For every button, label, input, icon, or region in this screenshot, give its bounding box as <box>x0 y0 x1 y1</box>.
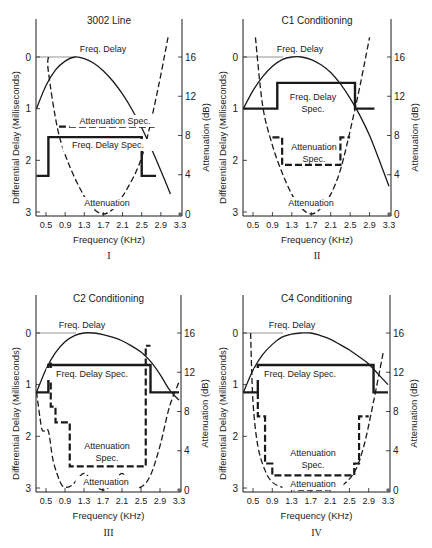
x-tick-label: 1.3 <box>285 496 298 506</box>
right-tick-label: 16 <box>185 52 197 63</box>
annotation-label: Freq. Delay Spec. <box>264 369 336 379</box>
x-tick-label: 0.9 <box>59 220 72 230</box>
left-tick-label: 1 <box>25 379 31 390</box>
annotation-label: Attenuation <box>83 477 129 487</box>
x-tick-label: 1.7 <box>305 496 318 506</box>
annotation-label: Attenuation <box>288 198 334 208</box>
left-tick-label: 0 <box>232 328 238 339</box>
x-tick-label: 1.7 <box>97 496 110 506</box>
x-tick-label: 2.9 <box>362 496 375 506</box>
series-freq-delay <box>243 333 388 393</box>
x-tick-label: 1.7 <box>97 220 110 230</box>
series-freq-delay <box>37 333 180 400</box>
right-tick-label: 0 <box>184 485 190 496</box>
x-axis-label: Frequency (KHz) <box>73 234 145 245</box>
panel-3002-line: 3002 Line012316128400.50.91.31.72.12.52.… <box>10 15 211 261</box>
x-tick-label: 3.3 <box>174 220 187 230</box>
annotation-label: Attenuation Spec. <box>79 116 150 126</box>
right-tick-label: 8 <box>394 130 400 141</box>
right-axis-label: Attenuation (dB) <box>409 103 420 172</box>
panel-c4-conditioning: C4 Conditioning012316128400.50.91.31.72.… <box>217 293 419 538</box>
left-axis-label: Differential Delay (Milliseconds) <box>10 347 21 480</box>
panel-numeral: I <box>107 250 110 261</box>
left-tick-label: 2 <box>232 155 238 166</box>
annotation-label: Freq. Delay <box>290 92 337 102</box>
left-tick-label: 2 <box>232 431 238 442</box>
panel-title: C2 Conditioning <box>73 293 144 304</box>
annotation-label: Freq. Delay <box>59 320 106 330</box>
x-tick-label: 2.5 <box>343 496 356 506</box>
right-tick-label: 4 <box>184 445 190 456</box>
left-axis-label: Differential Delay (Milliseconds) <box>10 71 21 204</box>
x-tick-label: 2.9 <box>154 496 167 506</box>
left-axis-label: Differential Delay (Milliseconds) <box>217 71 228 204</box>
right-tick-label: 12 <box>393 367 405 378</box>
x-tick-label: 0.5 <box>247 220 260 230</box>
right-axis-label: Attenuation (dB) <box>199 379 210 448</box>
annotation-label: Spec. <box>302 154 325 164</box>
left-tick-label: 1 <box>25 103 31 114</box>
x-tick-label: 2.9 <box>155 220 168 230</box>
panel-title: C4 Conditioning <box>281 293 352 304</box>
left-axis-label: Differential Delay (Milliseconds) <box>217 347 228 480</box>
annotation-label: Attenuation <box>290 448 336 458</box>
figure: 3002 Line012316128400.50.91.31.72.12.52.… <box>0 0 432 548</box>
right-tick-label: 16 <box>394 52 406 63</box>
annotation-label: Freq. Delay <box>269 320 316 330</box>
right-tick-label: 0 <box>185 209 191 220</box>
x-tick-label: 2.5 <box>344 220 357 230</box>
annotation-label: Attenuation <box>291 142 337 152</box>
right-tick-label: 12 <box>394 91 406 102</box>
left-tick-label: 1 <box>232 379 238 390</box>
x-tick-label: 2.5 <box>135 496 148 506</box>
left-tick-label: 2 <box>25 431 31 442</box>
annotation-label: Spec. <box>301 460 324 470</box>
x-tick-label: 2.5 <box>135 220 148 230</box>
panel-title: 3002 Line <box>87 15 131 26</box>
left-tick-label: 0 <box>25 52 31 63</box>
right-tick-label: 12 <box>185 91 197 102</box>
x-tick-label: 3.3 <box>382 496 395 506</box>
annotation-label: Attenuation <box>84 198 130 208</box>
x-tick-label: 1.3 <box>286 220 299 230</box>
left-tick-label: 3 <box>232 207 238 218</box>
x-tick-label: 2.1 <box>116 496 129 506</box>
right-tick-label: 16 <box>393 328 405 339</box>
x-tick-label: 0.5 <box>40 496 53 506</box>
right-tick-label: 0 <box>394 209 400 220</box>
x-tick-label: 0.9 <box>266 220 279 230</box>
right-axis-label: Attenuation (dB) <box>200 103 211 172</box>
left-tick-label: 0 <box>232 52 238 63</box>
x-tick-label: 2.1 <box>324 220 337 230</box>
x-tick-label: 3.3 <box>383 220 396 230</box>
annotation-label: Freq. Delay Spec. <box>72 140 144 150</box>
right-tick-label: 16 <box>184 328 196 339</box>
x-tick-label: 3.3 <box>173 496 186 506</box>
annotation-label: Spec. <box>95 453 118 463</box>
annotation-label: Spec. <box>301 104 324 114</box>
right-axis-label: Attenuation (dB) <box>408 379 419 448</box>
x-tick-label: 2.1 <box>324 496 337 506</box>
panel-numeral: IV <box>311 527 322 538</box>
x-tick-label: 1.7 <box>305 220 318 230</box>
left-tick-label: 2 <box>25 155 31 166</box>
panel-numeral: II <box>314 250 321 261</box>
panel-c2-conditioning: C2 Conditioning012316128400.50.91.31.72.… <box>10 293 210 538</box>
right-tick-label: 4 <box>393 445 399 456</box>
left-tick-label: 0 <box>25 328 31 339</box>
x-tick-label: 2.9 <box>363 220 376 230</box>
right-tick-label: 4 <box>394 169 400 180</box>
series-attenuation <box>37 382 180 490</box>
x-tick-label: 1.3 <box>78 220 91 230</box>
annotation-label: Freq. Delay <box>80 44 127 54</box>
x-tick-label: 2.1 <box>116 220 129 230</box>
annotation-label: Attenuation <box>84 441 130 451</box>
left-tick-label: 3 <box>25 483 31 494</box>
annotation-label: Freq. Delay Spec. <box>56 369 128 379</box>
right-tick-label: 4 <box>185 169 191 180</box>
x-tick-label: 1.3 <box>78 496 91 506</box>
annotation-label: Attenuation <box>290 479 336 489</box>
figure-canvas: 3002 Line012316128400.50.91.31.72.12.52.… <box>0 0 432 548</box>
left-tick-label: 3 <box>25 207 31 218</box>
x-axis-label: Frequency (KHz) <box>73 510 145 521</box>
